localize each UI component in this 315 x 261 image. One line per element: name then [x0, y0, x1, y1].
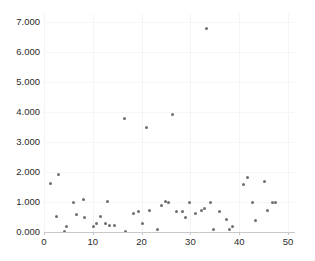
scatter-point: [113, 224, 116, 227]
scatter-point: [83, 216, 86, 219]
scatter-point: [242, 183, 245, 186]
scatter-point: [266, 209, 269, 212]
scatter-point: [228, 228, 231, 231]
scatter-point: [231, 225, 234, 228]
scatter-chart: 0.0001.0002.0003.0004.0005.0006.0007.000…: [0, 0, 315, 261]
scatter-point: [175, 210, 178, 213]
scatter-point: [263, 180, 266, 183]
scatter-point: [65, 225, 68, 228]
plot-area: [44, 14, 295, 232]
y-axis-tick-label: 6.000: [16, 47, 40, 57]
x-axis-tick-label: 30: [185, 237, 196, 247]
scatter-point: [212, 228, 215, 231]
scatter-point: [49, 182, 52, 185]
x-axis-tick-label: 50: [283, 237, 294, 247]
x-axis-tick: [239, 232, 240, 235]
gridline-horizontal: [44, 52, 295, 53]
scatter-point: [148, 209, 151, 212]
scatter-point: [184, 216, 187, 219]
y-axis-tick-label: 3.000: [16, 137, 40, 147]
scatter-point: [132, 212, 135, 215]
scatter-point: [57, 173, 60, 176]
scatter-point: [181, 210, 184, 213]
y-axis-tick-label: 5.000: [16, 77, 40, 87]
x-axis-tick-label: 0: [41, 237, 46, 247]
scatter-point: [160, 204, 163, 207]
scatter-point: [55, 215, 58, 218]
scatter-point: [145, 126, 148, 129]
gridline-horizontal: [44, 172, 295, 173]
y-axis-tick-label: 1.000: [16, 197, 40, 207]
y-axis-tick-labels: 0.0001.0002.0003.0004.0005.0006.0007.000: [0, 0, 40, 261]
scatter-point: [156, 228, 159, 231]
scatter-point: [225, 218, 228, 221]
gridline-horizontal: [44, 22, 295, 23]
gridline-vertical: [93, 14, 94, 232]
scatter-point: [137, 210, 140, 213]
x-axis-tick: [93, 232, 94, 235]
y-axis-tick-label: 0.000: [16, 227, 40, 237]
scatter-point: [203, 207, 206, 210]
scatter-point: [194, 212, 197, 215]
scatter-point: [205, 27, 208, 30]
y-axis-tick-label: 7.000: [16, 17, 40, 27]
scatter-point: [95, 222, 98, 225]
y-axis-tick-label: 4.000: [16, 107, 40, 117]
scatter-point: [171, 113, 174, 116]
scatter-point: [218, 210, 221, 213]
scatter-point: [167, 201, 170, 204]
x-axis-tick-label: 10: [88, 237, 99, 247]
x-axis-line: [44, 232, 295, 233]
scatter-point: [246, 176, 249, 179]
scatter-point: [164, 200, 167, 203]
scatter-point: [72, 201, 75, 204]
x-axis-tick: [288, 232, 289, 235]
gridline-vertical: [288, 14, 289, 232]
gridline-vertical: [142, 14, 143, 232]
gridline-vertical: [190, 14, 191, 232]
gridline-horizontal: [44, 112, 295, 113]
scatter-point: [75, 213, 78, 216]
scatter-point: [108, 224, 111, 227]
scatter-point: [123, 117, 126, 120]
scatter-point: [104, 222, 107, 225]
x-axis-tick: [142, 232, 143, 235]
y-axis-tick-label: 2.000: [16, 167, 40, 177]
gridline-horizontal: [44, 142, 295, 143]
scatter-point: [274, 201, 277, 204]
x-axis-tick: [190, 232, 191, 235]
scatter-point: [251, 201, 254, 204]
scatter-point: [99, 215, 102, 218]
scatter-point: [254, 219, 257, 222]
x-axis-tick: [44, 232, 45, 235]
gridline-vertical: [44, 14, 45, 232]
gridline-horizontal: [44, 82, 295, 83]
x-axis-tick-label: 40: [234, 237, 245, 247]
scatter-point: [106, 200, 109, 203]
x-axis-tick-label: 20: [136, 237, 147, 247]
gridline-vertical: [239, 14, 240, 232]
